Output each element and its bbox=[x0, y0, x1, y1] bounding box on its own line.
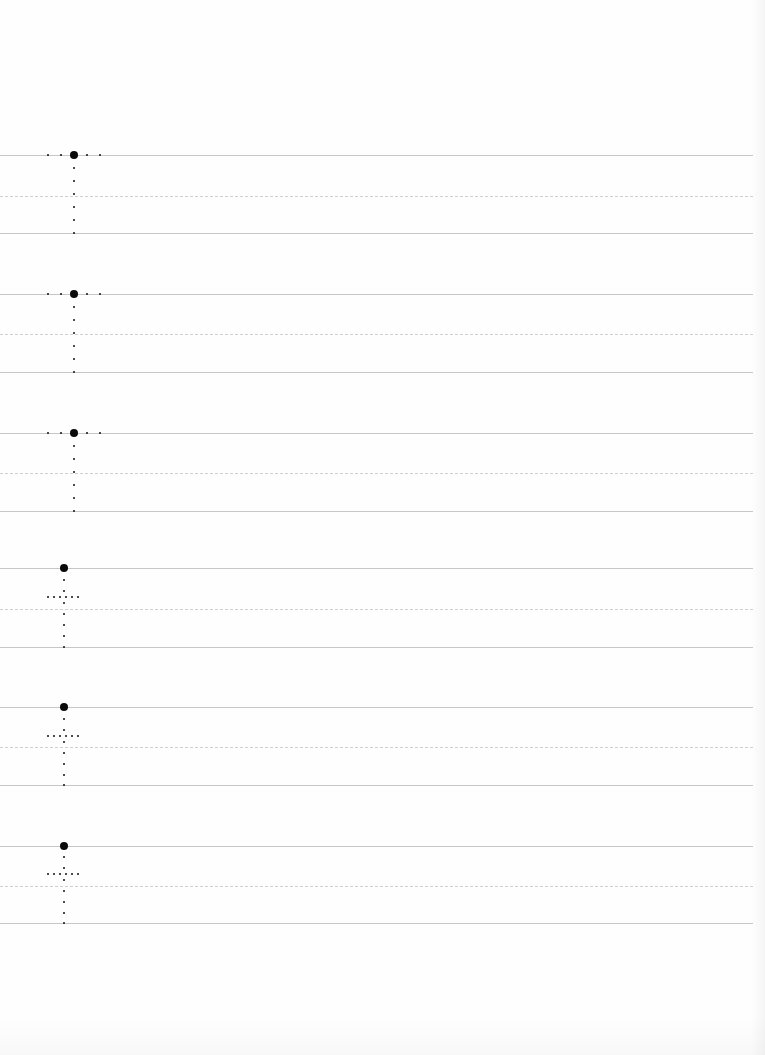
tracing-dot-horizontal-3 bbox=[59, 735, 62, 738]
tracing-dot-horizontal-2 bbox=[53, 873, 56, 876]
practice-row-2[interactable] bbox=[0, 294, 765, 372]
tracing-dot-vertical-5 bbox=[73, 497, 76, 500]
tracing-dot-vertical-3 bbox=[63, 741, 66, 744]
practice-row-3[interactable] bbox=[0, 433, 765, 511]
tracing-dot-vertical-5 bbox=[63, 901, 66, 904]
tracing-start-dot bbox=[60, 842, 68, 850]
tracing-dot-vertical-1 bbox=[73, 306, 76, 309]
tracing-dot-horizontal-3 bbox=[86, 293, 89, 296]
tracing-dot-vertical-4 bbox=[63, 890, 66, 893]
tracing-dot-horizontal-3 bbox=[86, 432, 89, 435]
tracing-dot-horizontal-2 bbox=[60, 432, 63, 435]
page-edge-shadow-bottom bbox=[0, 1015, 765, 1055]
ruling-line-baseline bbox=[0, 923, 753, 924]
tracing-dot-horizontal-4 bbox=[65, 873, 68, 876]
tracing-dot-horizontal-2 bbox=[53, 735, 56, 738]
tracing-glyph-t-row-1[interactable] bbox=[0, 155, 765, 233]
worksheet-page bbox=[0, 0, 765, 1055]
tracing-start-dot bbox=[70, 290, 78, 298]
ruling-line-baseline bbox=[0, 511, 753, 512]
tracing-dot-horizontal-6 bbox=[77, 873, 80, 876]
tracing-dot-horizontal-4 bbox=[65, 735, 68, 738]
tracing-dot-vertical-1 bbox=[63, 856, 66, 859]
tracing-dot-horizontal-3 bbox=[86, 154, 89, 157]
practice-row-6[interactable] bbox=[0, 846, 765, 923]
ruling-line-baseline bbox=[0, 647, 753, 648]
tracing-dot-vertical-4 bbox=[63, 613, 66, 616]
tracing-dot-horizontal-4 bbox=[99, 432, 102, 435]
tracing-dot-vertical-3 bbox=[63, 602, 66, 605]
tracing-dot-vertical-4 bbox=[73, 484, 76, 487]
tracing-dot-horizontal-1 bbox=[47, 873, 50, 876]
tracing-dot-vertical-5 bbox=[73, 219, 76, 222]
tracing-dot-vertical-1 bbox=[73, 445, 76, 448]
tracing-dot-vertical-5 bbox=[63, 624, 66, 627]
tracing-dot-vertical-5 bbox=[63, 763, 66, 766]
tracing-dot-vertical-2 bbox=[63, 867, 66, 870]
tracing-dot-vertical-3 bbox=[73, 332, 76, 335]
tracing-dot-vertical-5 bbox=[73, 358, 76, 361]
tracing-dot-vertical-1 bbox=[73, 167, 76, 170]
tracing-dot-horizontal-1 bbox=[47, 596, 50, 599]
tracing-glyph-t-row-3[interactable] bbox=[0, 433, 765, 511]
tracing-dot-vertical-1 bbox=[63, 579, 66, 582]
tracing-dot-vertical-2 bbox=[73, 458, 76, 461]
tracing-dot-vertical-4 bbox=[73, 345, 76, 348]
tracing-start-dot bbox=[70, 151, 78, 159]
tracing-glyph-t-row-4[interactable] bbox=[0, 568, 765, 647]
tracing-glyph-t-row-6[interactable] bbox=[0, 846, 765, 923]
tracing-dot-horizontal-2 bbox=[53, 596, 56, 599]
tracing-dot-horizontal-4 bbox=[99, 293, 102, 296]
tracing-dot-vertical-2 bbox=[73, 180, 76, 183]
practice-row-1[interactable] bbox=[0, 155, 765, 233]
tracing-dot-horizontal-3 bbox=[59, 873, 62, 876]
tracing-dot-vertical-3 bbox=[63, 879, 66, 882]
tracing-dot-vertical-3 bbox=[73, 193, 76, 196]
tracing-dot-horizontal-4 bbox=[99, 154, 102, 157]
tracing-start-dot bbox=[70, 429, 78, 437]
tracing-dot-vertical-6 bbox=[63, 635, 66, 638]
worksheet-header-area bbox=[0, 0, 765, 155]
ruling-line-baseline bbox=[0, 372, 753, 373]
ruling-line-baseline bbox=[0, 233, 753, 234]
tracing-dot-horizontal-1 bbox=[47, 293, 50, 296]
tracing-dot-horizontal-5 bbox=[71, 735, 74, 738]
tracing-dot-horizontal-2 bbox=[60, 154, 63, 157]
tracing-start-dot bbox=[60, 564, 68, 572]
tracing-dot-horizontal-5 bbox=[71, 873, 74, 876]
tracing-dot-vertical-2 bbox=[73, 319, 76, 322]
tracing-dot-vertical-2 bbox=[63, 729, 66, 732]
tracing-dot-vertical-6 bbox=[63, 912, 66, 915]
tracing-dot-horizontal-4 bbox=[65, 596, 68, 599]
tracing-dot-vertical-6 bbox=[63, 774, 66, 777]
tracing-glyph-t-row-2[interactable] bbox=[0, 294, 765, 372]
tracing-start-dot bbox=[60, 703, 68, 711]
practice-row-5[interactable] bbox=[0, 707, 765, 785]
tracing-dot-vertical-3 bbox=[73, 471, 76, 474]
tracing-dot-horizontal-1 bbox=[47, 735, 50, 738]
tracing-dot-horizontal-1 bbox=[47, 432, 50, 435]
tracing-dot-horizontal-3 bbox=[59, 596, 62, 599]
tracing-glyph-t-row-5[interactable] bbox=[0, 707, 765, 785]
tracing-dot-vertical-4 bbox=[73, 206, 76, 209]
tracing-dot-horizontal-6 bbox=[77, 596, 80, 599]
tracing-dot-horizontal-5 bbox=[71, 596, 74, 599]
ruling-line-baseline bbox=[0, 785, 753, 786]
tracing-dot-vertical-4 bbox=[63, 752, 66, 755]
tracing-dot-vertical-2 bbox=[63, 590, 66, 593]
tracing-dot-vertical-1 bbox=[63, 718, 66, 721]
tracing-dot-horizontal-6 bbox=[77, 735, 80, 738]
tracing-dot-horizontal-2 bbox=[60, 293, 63, 296]
tracing-dot-horizontal-1 bbox=[47, 154, 50, 157]
practice-row-4[interactable] bbox=[0, 568, 765, 647]
